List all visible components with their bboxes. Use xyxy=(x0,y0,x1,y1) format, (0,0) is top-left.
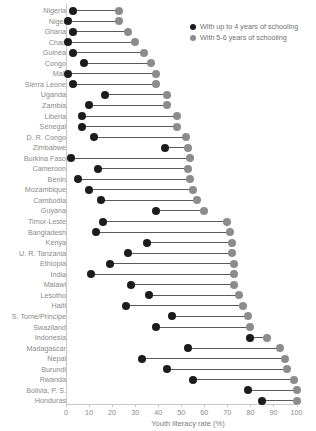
chart-row: Nepal xyxy=(0,353,316,364)
row-connector xyxy=(142,358,285,359)
data-point-5-6-years xyxy=(186,175,194,183)
chart-row: Malawi xyxy=(0,279,316,290)
chart-row: S. Tome/Principe xyxy=(0,311,316,322)
legend-swatch-dark-icon xyxy=(190,24,196,30)
x-tick xyxy=(297,404,298,407)
row-connector xyxy=(103,221,227,222)
row-connector xyxy=(73,10,119,11)
data-point-5-6-years xyxy=(228,239,236,247)
row-label: Malawi xyxy=(0,279,66,290)
row-label: Congo xyxy=(0,58,66,69)
row-connector xyxy=(126,305,244,306)
chart-row: Congo xyxy=(0,58,316,69)
data-point-up-to-4-years xyxy=(85,186,93,194)
row-label: S. Tome/Principe xyxy=(0,311,66,322)
chart-row: Senegal xyxy=(0,121,316,132)
data-point-5-6-years xyxy=(184,144,192,152)
data-point-5-6-years xyxy=(290,376,298,384)
chart-row: Haiti xyxy=(0,300,316,311)
chart-row: Mali xyxy=(0,68,316,79)
data-point-5-6-years xyxy=(230,281,238,289)
chart-row: Madagascar xyxy=(0,343,316,354)
data-point-up-to-4-years xyxy=(168,312,176,320)
data-point-up-to-4-years xyxy=(106,260,114,268)
row-connector xyxy=(89,189,193,190)
plot-area: NigeriaNigerGhanaChadGuineaCongoMaliSier… xyxy=(0,0,316,406)
row-connector xyxy=(98,168,188,169)
row-label: Bangladesh xyxy=(0,227,66,238)
data-point-up-to-4-years xyxy=(94,165,102,173)
chart-row: Burundi xyxy=(0,364,316,375)
data-point-5-6-years xyxy=(131,38,139,46)
x-tick xyxy=(227,404,228,407)
data-point-up-to-4-years xyxy=(145,291,153,299)
data-point-up-to-4-years xyxy=(97,196,105,204)
row-label: Mali xyxy=(0,68,66,79)
row-label: Timor-Leste xyxy=(0,216,66,227)
chart-row: Bolivia, P. S. xyxy=(0,385,316,396)
row-label: Rwanda xyxy=(0,374,66,385)
chart-row: Liberia xyxy=(0,111,316,122)
data-point-up-to-4-years xyxy=(244,386,252,394)
data-point-5-6-years xyxy=(182,133,190,141)
data-point-5-6-years xyxy=(186,154,194,162)
row-connector xyxy=(84,63,151,64)
data-point-5-6-years xyxy=(244,312,252,320)
data-point-5-6-years xyxy=(200,207,208,215)
chart-row: U. R. Tanzania xyxy=(0,248,316,259)
data-point-5-6-years xyxy=(173,123,181,131)
row-label: Ghana xyxy=(0,26,66,37)
data-point-up-to-4-years xyxy=(69,80,77,88)
data-point-up-to-4-years xyxy=(124,249,132,257)
chart-row: Cameroon xyxy=(0,163,316,174)
data-point-5-6-years xyxy=(184,165,192,173)
data-point-up-to-4-years xyxy=(64,17,72,25)
chart-row: Burkina Faso xyxy=(0,153,316,164)
data-point-up-to-4-years xyxy=(163,365,171,373)
row-label: Chad xyxy=(0,37,66,48)
row-label: Ethiopia xyxy=(0,258,66,269)
data-point-5-6-years xyxy=(246,323,254,331)
row-connector xyxy=(128,253,232,254)
row-label: Mozambique xyxy=(0,184,66,195)
row-connector xyxy=(248,390,296,391)
row-connector xyxy=(68,73,156,74)
chart-row: Timor-Leste xyxy=(0,216,316,227)
data-point-up-to-4-years xyxy=(67,154,75,162)
x-axis-title: Youth literacy rate (%) xyxy=(0,419,316,428)
row-connector xyxy=(73,31,128,32)
data-point-5-6-years xyxy=(228,249,236,257)
row-label: Liberia xyxy=(0,111,66,122)
x-tick xyxy=(273,404,274,407)
row-connector xyxy=(82,126,177,127)
data-point-up-to-4-years xyxy=(138,355,146,363)
data-point-up-to-4-years xyxy=(92,228,100,236)
x-tick xyxy=(250,404,251,407)
row-label: Zambia xyxy=(0,100,66,111)
chart-row: Uganda xyxy=(0,89,316,100)
legend-swatch-light-icon xyxy=(190,35,196,41)
row-label: Nepal xyxy=(0,353,66,364)
chart-row: Nigeria xyxy=(0,5,316,16)
chart-legend: With up to 4 years of schooling With 5-6… xyxy=(190,21,298,43)
x-tick xyxy=(135,404,136,407)
row-label: Uganda xyxy=(0,89,66,100)
data-point-5-6-years xyxy=(276,344,284,352)
legend-item-5-6-years: With 5-6 years of schooling xyxy=(190,32,298,43)
chart-row: D. R. Congo xyxy=(0,132,316,143)
row-label: Indonesia xyxy=(0,332,66,343)
data-point-up-to-4-years xyxy=(87,270,95,278)
legend-label-up-to-4-years: With up to 4 years of schooling xyxy=(200,22,298,31)
data-point-5-6-years xyxy=(281,355,289,363)
data-point-up-to-4-years xyxy=(64,38,72,46)
row-connector xyxy=(188,348,280,349)
data-point-up-to-4-years xyxy=(101,91,109,99)
data-point-5-6-years xyxy=(124,28,132,36)
data-point-up-to-4-years xyxy=(189,376,197,384)
row-label: Madagascar xyxy=(0,343,66,354)
data-point-5-6-years xyxy=(115,7,123,15)
data-point-5-6-years xyxy=(230,260,238,268)
row-connector xyxy=(156,327,251,328)
data-point-up-to-4-years xyxy=(69,49,77,57)
chart-row: Sierra Leone xyxy=(0,79,316,90)
